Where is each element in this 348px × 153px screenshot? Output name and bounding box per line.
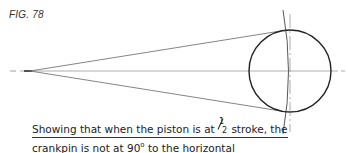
figure-caption: Showing that when the piston is at 12 st… (32, 121, 288, 153)
half-fraction: 12 (218, 121, 228, 133)
caption-line1-start: Showing that when the piston is at (32, 123, 218, 135)
caption-line2-end: to the horizontal (145, 142, 235, 153)
piston-arc (283, 10, 289, 134)
caption-line2-start: crankpin is not at 90 (32, 142, 140, 153)
upper-rod-line (30, 30, 287, 71)
lower-rod-line (30, 71, 287, 112)
caption-line1-end: stroke, the (228, 123, 288, 135)
